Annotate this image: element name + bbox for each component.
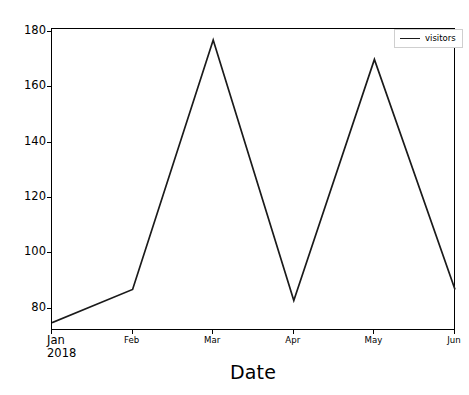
line-series-svg xyxy=(52,29,456,331)
x-tick-label: May xyxy=(365,336,383,346)
x-axis-title: Date xyxy=(51,361,455,383)
legend-swatch-visitors xyxy=(400,38,420,39)
series-line-visitors xyxy=(52,40,455,323)
legend-label-visitors: visitors xyxy=(425,34,456,43)
chart-legend: visitors xyxy=(394,29,463,48)
y-tick-label: 80 xyxy=(31,302,46,314)
x-tick-label: Apr xyxy=(285,336,300,346)
y-tick-label: 160 xyxy=(24,80,46,92)
y-tick-label: 180 xyxy=(24,25,46,37)
plot-area xyxy=(51,28,455,330)
y-tick-label: 100 xyxy=(24,247,46,259)
x-tick-label: Mar xyxy=(204,336,220,346)
x-tick-label: Feb xyxy=(124,336,139,346)
y-tick-label: 120 xyxy=(24,191,46,203)
x-tick-label: Jan 2018 xyxy=(47,334,76,360)
x-tick-label: Jun xyxy=(447,336,460,346)
y-tick-label: 140 xyxy=(24,136,46,148)
chart-figure: 80100120140160180 Jan 2018FebMarAprMayJu… xyxy=(0,0,469,395)
